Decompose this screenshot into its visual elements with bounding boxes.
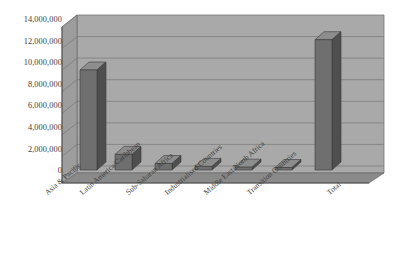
x-tick-label: Total bbox=[325, 180, 343, 197]
bar-chart: 14,000,000 12,000,000 10,000,000 8,000,0… bbox=[0, 0, 394, 277]
x-axis: Asia & Pacific Latin America/Caribbean S… bbox=[0, 0, 394, 277]
x-tick-label: Asia & Pacific bbox=[43, 161, 83, 197]
